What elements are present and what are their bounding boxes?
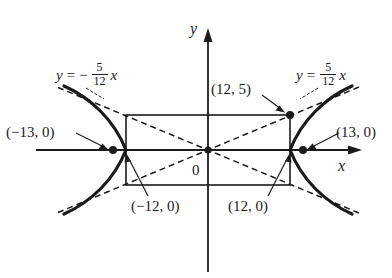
vertex-left-label: (−12, 0) [131,199,179,214]
vertex-right-label: (12, 0) [228,199,268,214]
asymptote-left-sign: − [79,68,87,83]
leader-line-asymptote-right [300,88,318,99]
asymptote-left-denominator: 12 [92,74,108,88]
leader-line-focus-right [312,133,339,147]
x-axis-label: x [338,158,345,174]
focus-left-label: (−13, 0) [6,125,54,140]
corner-top-right-point [286,111,294,119]
x-axis-arrow [348,146,362,155]
asymptote-left-numerator: 5 [95,61,105,74]
asymptote-right-equals: = [307,68,315,83]
leader-line-asymptote-left [86,88,104,99]
focus-left-point [109,146,117,154]
asymptote-left-equation: y = − 5 12 x [56,62,117,88]
asymptote-left-lhs: y [56,68,63,83]
asymptote-right-numerator: 5 [323,61,333,74]
asymptote-left-equals: = [67,68,75,83]
asymptote-left-variable: x [111,68,118,83]
leader-line-vertex-left [129,159,148,196]
leader-arrow-focus-right [307,144,317,150]
y-axis-label: y [190,21,197,37]
asymptote-left-fraction: 5 12 [92,61,108,87]
origin-point [204,146,211,153]
hyperbola-figure: y x 0 y = − 5 12 x y = 5 12 x (−13, 0) (… [0,0,392,278]
leader-line-focus-left [76,133,104,147]
origin-label: 0 [192,163,200,178]
asymptote-right-denominator: 12 [320,74,336,88]
focus-right-point [299,146,307,154]
y-axis-arrow [204,28,213,42]
leader-line-corner [262,95,281,109]
asymptote-right-fraction: 5 12 [320,61,336,87]
figure-canvas [0,0,392,278]
leader-line-vertex-right [268,159,287,196]
corner-top-right-label: (12, 5) [211,82,251,97]
asymptote-right-variable: x [339,68,346,83]
asymptote-right-equation: y = 5 12 x [296,62,346,88]
asymptote-right-lhs: y [296,68,303,83]
focus-right-label: (13, 0) [336,125,376,140]
